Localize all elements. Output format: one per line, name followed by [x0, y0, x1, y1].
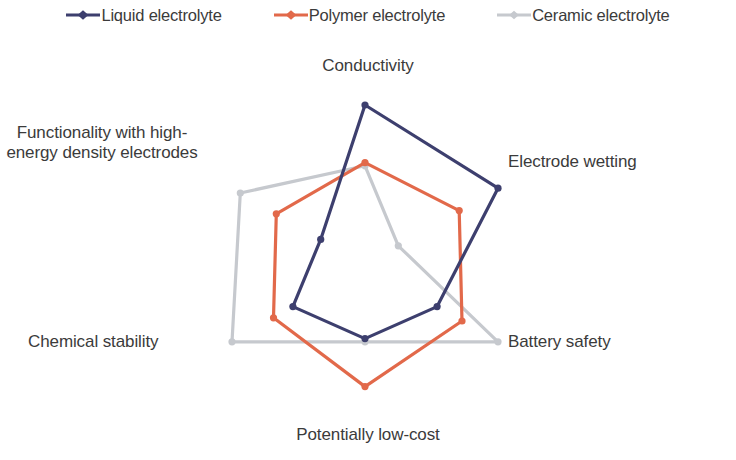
data-point-marker — [289, 303, 296, 310]
axis-label-battery-safety: Battery safety — [508, 332, 611, 352]
data-point-marker — [237, 189, 244, 196]
axis-label-electrode-wetting: Electrode wetting — [508, 152, 637, 172]
axis-label-functionality-high-energy-density-electrodes: Functionality with high-energy density e… — [2, 123, 202, 163]
data-point-marker — [434, 303, 441, 310]
series-polymer-electrolyte — [270, 159, 466, 390]
radar-chart: Conductivity Electrode wetting Battery s… — [0, 0, 736, 460]
series-liquid-electrolyte — [289, 101, 501, 342]
data-point-marker — [361, 159, 368, 166]
data-point-marker — [494, 338, 501, 345]
data-point-marker — [494, 185, 501, 192]
axis-label-potentially-low-cost: Potentially low-cost — [0, 425, 736, 445]
axis-label-conductivity: Conductivity — [0, 56, 736, 76]
data-point-marker — [270, 314, 277, 321]
data-point-marker — [361, 383, 368, 390]
data-point-marker — [456, 207, 463, 214]
data-point-marker — [395, 242, 402, 249]
series-outline — [293, 105, 498, 339]
series-outline — [274, 163, 463, 387]
data-point-marker — [361, 335, 368, 342]
data-point-marker — [361, 101, 368, 108]
data-point-marker — [228, 338, 235, 345]
axis-label-chemical-stability: Chemical stability — [28, 332, 158, 352]
data-point-marker — [317, 236, 324, 243]
data-point-marker — [273, 210, 280, 217]
data-point-marker — [458, 317, 465, 324]
